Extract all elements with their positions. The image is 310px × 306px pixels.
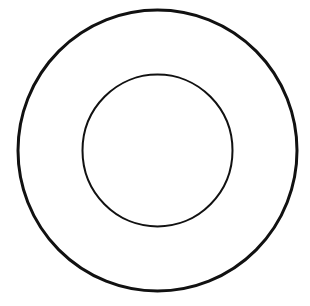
outer-circle xyxy=(18,10,297,291)
inner-circle xyxy=(83,75,233,227)
diagram-canvas xyxy=(0,0,310,306)
concentric-circles-diagram xyxy=(0,0,310,306)
